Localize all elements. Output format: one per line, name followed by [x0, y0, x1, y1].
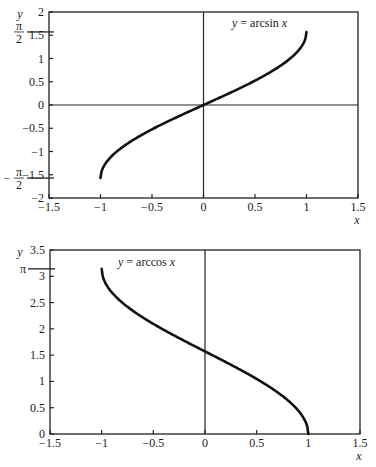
y-tick-label: 0.5 — [30, 401, 45, 415]
y-tick-label: 0.5 — [29, 75, 44, 89]
x-tick-label: −0.5 — [141, 200, 163, 214]
y-tick-label: 3 — [39, 269, 45, 283]
pi-marker-denominator: 2 — [16, 178, 22, 192]
function-label: y = arccos x — [117, 255, 176, 269]
x-tick-label: 0 — [202, 436, 208, 450]
x-tick-label: 1 — [305, 436, 311, 450]
x-tick-label: 0.5 — [249, 436, 264, 450]
x-tick-label: −1 — [94, 200, 107, 214]
y-tick-label: 1 — [39, 374, 45, 388]
y-tick-label: 3.5 — [30, 243, 45, 257]
pi-marker-sign: − — [4, 171, 11, 185]
arcsin-plot: −1.5−1−0.500.511.5−2−1.5−1−0.500.511.52π… — [4, 5, 366, 227]
function-label: y = arcsin x — [231, 16, 288, 30]
x-tick-label: −0.5 — [142, 436, 164, 450]
function-plots: −1.5−1−0.500.511.5−2−1.5−1−0.500.511.52π… — [0, 0, 376, 467]
x-tick-label: −1 — [95, 436, 108, 450]
y-tick-label: 2.5 — [30, 296, 45, 310]
x-tick-label: 1.5 — [351, 200, 366, 214]
x-tick-label: 0.5 — [248, 200, 263, 214]
x-axis-title: x — [353, 213, 360, 227]
x-tick-label: 1.5 — [353, 436, 368, 450]
y-tick-label: 1.5 — [30, 348, 45, 362]
y-tick-label: 1.5 — [29, 28, 44, 42]
y-tick-label: 2 — [38, 5, 44, 19]
pi-marker-denominator: 2 — [16, 32, 22, 46]
pi-marker-numerator: π — [16, 19, 22, 33]
arccos-plot: −1.5−1−0.500.511.500.511.522.533.5πyxy =… — [16, 243, 367, 463]
y-tick-label: 0 — [39, 427, 45, 441]
y-axis-title: y — [16, 7, 23, 21]
y-tick-label: 1 — [38, 52, 44, 66]
pi-marker-label: π — [20, 262, 26, 276]
y-axis-title: y — [16, 245, 23, 259]
y-tick-label: −0.5 — [22, 121, 44, 135]
y-tick-label: −1.5 — [22, 168, 44, 182]
y-tick-label: 0 — [38, 98, 44, 112]
pi-marker-numerator: π — [16, 165, 22, 179]
x-tick-label: 1 — [304, 200, 310, 214]
x-tick-label: 0 — [201, 200, 207, 214]
y-tick-label: −1 — [31, 145, 44, 159]
y-tick-label: 2 — [39, 322, 45, 336]
x-axis-title: x — [355, 449, 362, 463]
y-tick-label: −2 — [31, 191, 44, 205]
